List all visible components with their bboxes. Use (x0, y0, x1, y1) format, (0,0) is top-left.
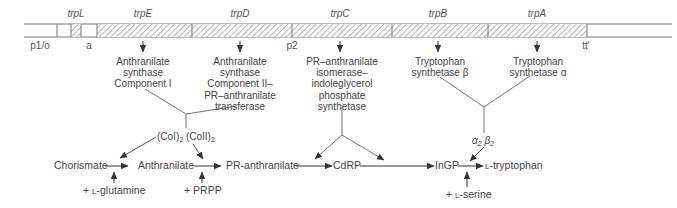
cosubstrate-glutamine: + L-glutamine (83, 185, 146, 197)
attenuator-label: a (86, 40, 92, 51)
gene-label-trpA: trpA (528, 8, 546, 19)
tryptophan-synthetase-assembly (440, 76, 530, 133)
enzyme-line: synthase (114, 67, 171, 78)
expression-arrows (143, 41, 537, 52)
enzyme-line: synthetase β (412, 67, 469, 78)
enzyme-trpC: PR–anthranilate isomerase– indoleglycero… (306, 56, 378, 112)
cosubstrate-name: -glutamine (97, 184, 146, 196)
metabolite-cdrp: CdRP (333, 160, 361, 171)
cosubstrate-serine: + L-serine (446, 189, 492, 201)
complex-part: (CoI) (157, 131, 179, 142)
metabolite-pr-anthranilate: PR-anthranilate (226, 160, 299, 171)
enzyme-line: Tryptophan (510, 56, 567, 67)
operon-bar (24, 24, 672, 37)
enzyme-trpD: Anthranilate synthase Component II– PR–a… (204, 56, 276, 112)
metabolite-tryptophan: L-tryptophan (485, 160, 543, 172)
enzyme-line: phosphate (306, 90, 378, 101)
enzyme-line: isomerase– (306, 67, 378, 78)
plus-sign: + (83, 184, 92, 196)
subscript: 2 (490, 140, 494, 147)
enzyme-line: synthetase α (510, 67, 567, 78)
metabolite-chorismate: Chorismate (54, 160, 108, 171)
plus-sign: + (446, 188, 455, 200)
metabolite-ingp: InGP (435, 160, 459, 171)
terminator-label: tt' (582, 40, 589, 51)
enzyme-trpA: Tryptophan synthetase α (510, 56, 567, 78)
enzyme-line: Anthranilate (204, 56, 276, 67)
cosubstrate-name: -serine (460, 188, 492, 200)
complex-part: (CoII) (186, 131, 211, 142)
enzyme-line: Anthranilate (114, 56, 171, 67)
gene-label-trpD: trpD (231, 8, 250, 19)
trpL-segment (71, 24, 81, 37)
structural-genes-segment (97, 24, 587, 37)
enzyme-line: Component II– (204, 78, 276, 89)
subscript: 2 (211, 136, 215, 143)
tryptophan-synthetase-complex: α2 β2 (472, 135, 494, 149)
enzyme-line: PR–anthranilate (204, 90, 276, 101)
gene-label-trpC: trpC (331, 8, 350, 19)
enzyme-line: indoleglycerol (306, 78, 378, 89)
metabolite-anthranilate: Anthranilate (138, 160, 194, 171)
gene-label-trpL: trpL (67, 8, 84, 19)
enzyme-line: synthetase (306, 101, 378, 112)
promoter2-label: p2 (286, 40, 297, 51)
enzyme-line: PR–anthranilate (306, 56, 378, 67)
enzyme-line: Tryptophan (412, 56, 469, 67)
anthranilate-synthase-complex: (CoI)2 (CoII)2 (157, 131, 215, 145)
enzyme-line: Component I (114, 78, 171, 89)
enzyme-trpB: Tryptophan synthetase β (412, 56, 469, 78)
enzyme-line: synthase (204, 67, 276, 78)
enzyme-line: transferase (204, 101, 276, 112)
promoter-operator-label: p1/o (30, 40, 49, 51)
enzyme-trpE: Anthranilate synthase Component I (114, 56, 171, 90)
subscript: 2 (478, 140, 482, 147)
cosubstrate-prpp: + PRPP (184, 185, 222, 196)
subscript: 2 (179, 136, 183, 143)
metabolite-name: -tryptophan (489, 159, 542, 171)
gene-label-trpB: trpB (429, 8, 447, 19)
gene-label-trpE: trpE (134, 8, 152, 19)
cosubstrate-arrows (114, 172, 467, 187)
prai-ingps-lines (315, 107, 384, 160)
